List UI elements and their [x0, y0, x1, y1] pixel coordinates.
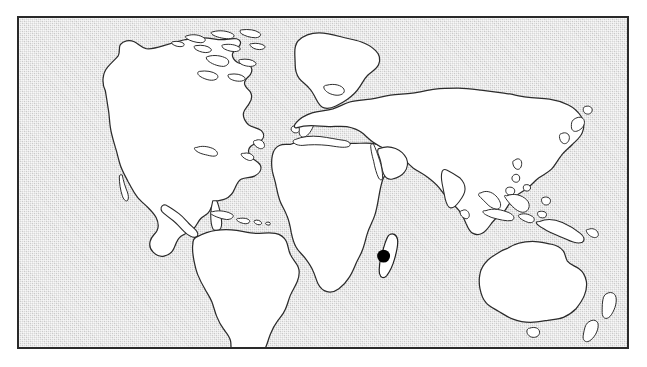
landmass-south-america [192, 230, 299, 347]
landmass-solomon-islands [586, 229, 598, 238]
landmass-greenland [295, 33, 380, 108]
map-vector-layer [19, 18, 627, 347]
highlighted-region-madagascar [377, 234, 398, 278]
range-marker-dot [377, 250, 390, 263]
landmass-new-guinea [536, 220, 584, 243]
world-distribution-map [0, 0, 647, 367]
landmass-newfoundland [253, 140, 264, 149]
landmass-new-zealand [583, 293, 616, 342]
landmass-sri-lanka [460, 210, 469, 219]
landmass-tasmania [527, 327, 540, 337]
landmass-australia [479, 241, 586, 322]
map-frame [17, 16, 629, 349]
